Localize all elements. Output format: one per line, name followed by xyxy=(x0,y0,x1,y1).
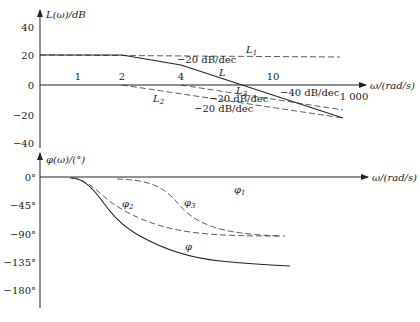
freq-tick-10: 10 xyxy=(267,71,280,82)
series-phi xyxy=(70,178,290,266)
phase-tick-minus45: −45° xyxy=(10,200,36,211)
freq-tick-1000: 1 000 xyxy=(340,91,369,102)
mag-y-axis-label: L(ω)/dB xyxy=(45,9,86,20)
freq-tick-4: 4 xyxy=(178,71,184,82)
phase-tick-minus135: −135° xyxy=(4,257,36,268)
slope-label-c: −20 dB/dec xyxy=(194,103,254,114)
freq-tick-1: 1 xyxy=(75,71,81,82)
mag-tick-40: 40 xyxy=(21,22,34,33)
label-phi1: φ1 xyxy=(234,184,245,197)
label-L: L xyxy=(218,67,226,78)
label-phi2: φ2 xyxy=(122,198,134,211)
bode-diagram: L(ω)/dB ω/(rad/s) 40 20 0 −20 −40 1 2 4 … xyxy=(0,0,420,322)
phase-tick-minus180: −180° xyxy=(4,285,36,296)
phase-plot: φ(ω)/(°) ω/(rad/s) 0° −45° −90° −135° −1… xyxy=(4,153,418,308)
slope-label-d: −40 dB/dec xyxy=(280,87,340,98)
mag-tick-minus20: −20 xyxy=(13,110,34,121)
freq-tick-2: 2 xyxy=(119,71,125,82)
mag-tick-0: 0 xyxy=(28,80,34,91)
magnitude-plot: L(ω)/dB ω/(rad/s) 40 20 0 −20 −40 1 2 4 … xyxy=(13,9,415,149)
series-phi3 xyxy=(117,179,280,236)
label-phi3: φ3 xyxy=(184,197,196,210)
phase-tick-0: 0° xyxy=(25,172,36,183)
slope-label-a: −20 dB/dec xyxy=(177,54,237,65)
mag-x-axis-label: ω/(rad/s) xyxy=(370,80,415,91)
mag-tick-20: 20 xyxy=(21,50,34,61)
series-phi2 xyxy=(72,178,285,236)
phase-tick-minus90: −90° xyxy=(10,229,36,240)
phase-y-axis-label: φ(ω)/(°) xyxy=(46,154,85,165)
phase-x-axis-label: ω/(rad/s) xyxy=(372,172,417,183)
label-L2: L2 xyxy=(152,93,165,106)
mag-tick-minus40: −40 xyxy=(13,138,34,149)
label-phi: φ xyxy=(185,241,192,252)
label-L1: L1 xyxy=(245,44,257,57)
